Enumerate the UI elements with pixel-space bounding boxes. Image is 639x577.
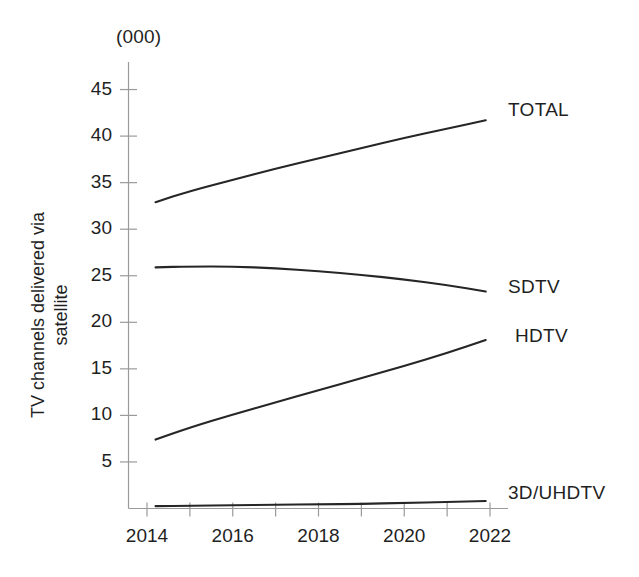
y-axis-tick-label: 25 <box>72 264 112 286</box>
x-axis-tick-label: 2018 <box>284 525 354 547</box>
y-axis-tick-label: 30 <box>72 217 112 239</box>
series-lines <box>156 120 486 506</box>
x-axis-tick-label: 2020 <box>369 525 439 547</box>
y-axis-tick-label: 15 <box>72 357 112 379</box>
series-line-sdtv <box>156 266 486 291</box>
x-axis-tick-label: 2022 <box>455 525 525 547</box>
y-axis-tick-label: 35 <box>72 171 112 193</box>
y-axis-tick-label: 5 <box>72 450 112 472</box>
series-label-total: TOTAL <box>508 99 569 121</box>
y-axis-tick-label: 45 <box>72 78 112 100</box>
y-axis-tick-label: 20 <box>72 310 112 332</box>
y-axis-tick-label: 40 <box>72 124 112 146</box>
series-label-hdtv: HDTV <box>515 325 568 347</box>
series-label-3d-uhdtv: 3D/UHDTV <box>508 482 605 504</box>
x-axis-tick-label: 2016 <box>198 525 268 547</box>
series-line-hdtv <box>156 340 486 440</box>
chart-container: (000) TV channels delivered via satellit… <box>0 0 639 577</box>
y-axis-tick-label: 10 <box>72 403 112 425</box>
x-axis-tick-label: 2014 <box>112 525 182 547</box>
series-line-total <box>156 120 486 202</box>
series-line-3d-uhdtv <box>156 501 486 506</box>
series-label-sdtv: SDTV <box>508 276 560 298</box>
